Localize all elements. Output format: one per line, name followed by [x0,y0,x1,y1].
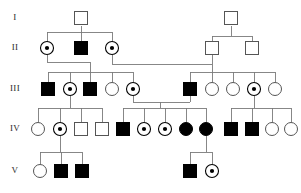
individual-iv-12 [266,123,279,136]
individual-v-2 [55,165,68,178]
individual-iii-8 [227,83,240,96]
carrier-center-dot-icon [210,169,214,173]
individual-ii-2 [75,42,88,55]
individual-i-1 [75,12,88,25]
individual-symbols-group [32,12,298,178]
affected-male-symbol [42,83,55,96]
affected-female-symbol [200,123,213,136]
individual-v-5 [206,165,219,178]
individual-v-3 [76,165,89,178]
individual-iii-1 [42,83,55,96]
individual-iii-6 [184,83,197,96]
unaffected-male-symbol [96,123,109,136]
individual-v-1 [34,165,47,178]
individual-iii-7 [206,83,219,96]
individual-iv-8 [180,123,193,136]
affected-male-symbol [55,165,68,178]
carrier-center-dot-icon [252,87,256,91]
unaffected-female-symbol [266,123,279,136]
unaffected-male-symbol [75,12,88,25]
affected-male-symbol [246,123,259,136]
individual-iv-5 [117,123,130,136]
individual-iv-3 [75,123,88,136]
unaffected-female-symbol [285,123,298,136]
generation-labels-group: IIIIIIIVV [10,12,20,175]
unaffected-male-symbol [225,12,238,25]
affected-male-symbol [184,165,197,178]
individual-iv-10 [225,123,238,136]
unaffected-female-symbol [206,83,219,96]
affected-female-symbol [180,123,193,136]
carrier-center-dot-icon [45,46,49,50]
generation-label-i: I [13,12,16,22]
individual-iv-1 [32,123,45,136]
unaffected-female-symbol [227,83,240,96]
carrier-center-dot-icon [131,87,135,91]
unaffected-female-symbol [269,83,282,96]
individual-v-4 [184,165,197,178]
individual-ii-5 [246,42,259,55]
carrier-center-dot-icon [68,87,72,91]
unaffected-female-symbol [32,123,45,136]
individual-iii-4 [106,83,119,96]
individual-iv-13 [285,123,298,136]
unaffected-female-symbol [106,83,119,96]
pedigree-chart-figure: IIIIIIIVV [0,0,301,193]
unaffected-male-symbol [246,42,259,55]
individual-iii-3 [84,83,97,96]
affected-male-symbol [117,123,130,136]
individual-ii-4 [206,42,219,55]
generation-label-iv: IV [10,123,20,133]
individual-iv-7 [159,123,172,136]
individual-iv-9 [200,123,213,136]
affected-male-symbol [184,83,197,96]
affected-male-symbol [75,42,88,55]
individual-iii-9 [248,83,261,96]
affected-male-symbol [76,165,89,178]
generation-label-iii: III [10,83,20,93]
individual-iv-4 [96,123,109,136]
carrier-center-dot-icon [58,127,62,131]
carrier-center-dot-icon [163,127,167,131]
individual-ii-3 [106,42,119,55]
carrier-center-dot-icon [110,46,114,50]
individual-iv-6 [138,123,151,136]
generation-label-v: V [12,165,19,175]
unaffected-male-symbol [206,42,219,55]
individual-ii-1 [41,42,54,55]
affected-male-symbol [225,123,238,136]
individual-iii-10 [269,83,282,96]
affected-male-symbol [84,83,97,96]
individual-i-2 [225,12,238,25]
carrier-center-dot-icon [142,127,146,131]
pedigree-canvas: IIIIIIIVV [0,0,301,193]
unaffected-male-symbol [75,123,88,136]
individual-iii-2 [64,83,77,96]
individual-iii-5 [127,83,140,96]
individual-iv-2 [54,123,67,136]
unaffected-female-symbol [34,165,47,178]
individual-iv-11 [246,123,259,136]
generation-label-ii: II [12,42,19,52]
